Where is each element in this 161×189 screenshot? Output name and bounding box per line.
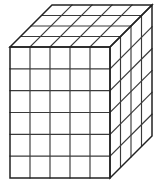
cube-block-diagram bbox=[0, 0, 161, 189]
figure-root bbox=[0, 0, 161, 189]
